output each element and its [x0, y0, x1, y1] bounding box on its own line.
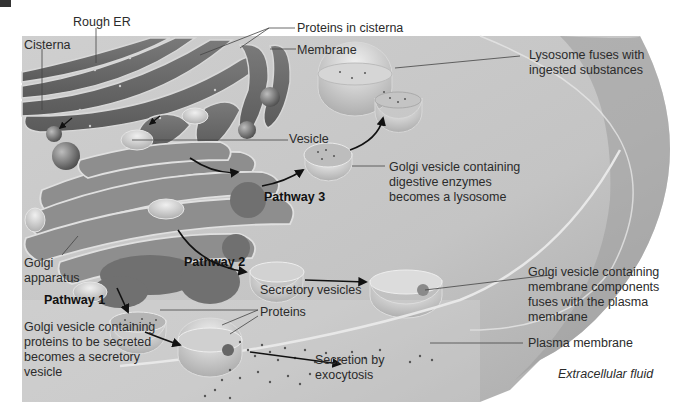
- label-secretory-vesicles: Secretory vesicles: [260, 283, 361, 298]
- label-line: digestive enzymes: [389, 175, 520, 190]
- label-proteins-in-cisterna: Proteins in cisterna: [297, 21, 403, 36]
- label-rough-er: Rough ER: [73, 15, 131, 30]
- label-line: Lysosome fuses with: [529, 48, 645, 63]
- label-extracellular-fluid: Extracellular fluid: [558, 367, 653, 382]
- label-golgi-apparatus: Golgi apparatus: [24, 256, 80, 286]
- label-pathway-2: Pathway 2: [184, 255, 245, 270]
- label-plasma-membrane: Plasma membrane: [528, 336, 633, 351]
- label-line: membrane components: [528, 280, 659, 295]
- label-line: becomes a lysosome: [389, 190, 520, 205]
- label-line: Golgi vesicle containing: [389, 160, 520, 175]
- label-line: Golgi vesicle containing: [528, 265, 659, 280]
- label-line: fuses with the plasma: [528, 295, 659, 310]
- label-cisterna: Cisterna: [24, 38, 71, 53]
- label-line: apparatus: [24, 271, 80, 286]
- label-line: membrane: [528, 310, 659, 325]
- pathway3-vesicle: [304, 143, 352, 181]
- label-lysosome-fuses: Lysosome fuses with ingested substances: [529, 48, 645, 78]
- label-line: becomes a secretory: [24, 350, 155, 365]
- label-line: proteins to be secreted: [24, 335, 155, 350]
- label-pathway3-description: Golgi vesicle containing digestive enzym…: [389, 160, 520, 205]
- label-pathway-1: Pathway 1: [44, 293, 105, 308]
- label-membrane-components-description: Golgi vesicle containing membrane compon…: [528, 265, 659, 325]
- label-pathway1-description: Golgi vesicle containing proteins to be …: [24, 320, 155, 380]
- label-vesicle: Vesicle: [289, 132, 329, 147]
- label-line: Golgi: [24, 256, 80, 271]
- label-pathway-3: Pathway 3: [264, 190, 325, 205]
- label-line: ingested substances: [529, 63, 645, 78]
- label-line: exocytosis: [315, 368, 384, 383]
- label-line: Golgi vesicle containing: [24, 320, 155, 335]
- label-membrane: Membrane: [297, 43, 357, 58]
- label-secretion-by-exocytosis: Secretion by exocytosis: [315, 353, 384, 383]
- label-proteins: Proteins: [260, 305, 306, 320]
- label-line: vesicle: [24, 365, 155, 380]
- label-line: Secretion by: [315, 353, 384, 368]
